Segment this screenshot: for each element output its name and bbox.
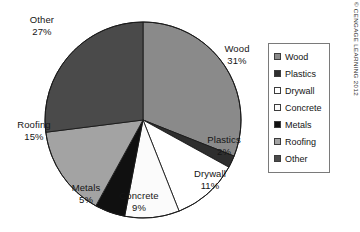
pie-label-roofing-value: 15% <box>7 131 61 143</box>
legend-item-plastics[interactable]: Plastics <box>274 65 329 82</box>
pie-label-metals-name: Metals <box>72 182 101 193</box>
legend-label-wood: Wood <box>285 52 308 62</box>
legend-item-other[interactable]: Other <box>274 150 329 167</box>
pie-label-concrete-name: Concrete <box>119 190 158 201</box>
pie-label-concrete: Concrete 9% <box>110 190 168 213</box>
legend-item-drywall[interactable]: Drywall <box>274 82 329 99</box>
pie-label-other: Other 27% <box>14 14 70 37</box>
pie-label-drywall-value: 11% <box>184 180 236 192</box>
pie-label-metals-value: 5% <box>62 194 110 206</box>
pie-label-roofing-name: Roofing <box>17 119 50 130</box>
legend-swatch-other <box>274 155 281 162</box>
copyright-text: © CENGAGE LEARNING 2012 <box>353 2 360 96</box>
legend-label-plastics: Plastics <box>285 69 316 79</box>
pie-label-plastics-value: 2% <box>196 146 252 158</box>
pie-label-plastics-name: Plastics <box>207 134 241 145</box>
pie-label-wood-name: Wood <box>224 43 249 54</box>
pie-label-metals: Metals 5% <box>62 182 110 205</box>
pie-label-drywall: Drywall 11% <box>184 168 236 191</box>
legend-item-metals[interactable]: Metals <box>274 116 329 133</box>
legend-swatch-drywall <box>274 87 281 94</box>
legend-swatch-wood <box>274 53 281 60</box>
pie-label-other-value: 27% <box>14 26 70 38</box>
pie-slice-other[interactable] <box>45 22 143 132</box>
pie-label-roofing: Roofing 15% <box>7 119 61 142</box>
copyright-notice: © CENGAGE LEARNING 2012 <box>353 2 360 96</box>
legend-swatch-roofing <box>274 138 281 145</box>
legend-swatch-plastics <box>274 70 281 77</box>
legend-swatch-metals <box>274 121 281 128</box>
legend-label-metals: Metals <box>285 120 312 130</box>
legend-item-roofing[interactable]: Roofing <box>274 133 329 150</box>
legend-item-wood[interactable]: Wood <box>274 48 329 65</box>
pie-label-other-name: Other <box>30 14 54 25</box>
legend-item-concrete[interactable]: Concrete <box>274 99 329 116</box>
pie-label-drywall-name: Drywall <box>194 168 226 179</box>
pie-label-plastics: Plastics 2% <box>196 134 252 157</box>
pie-label-wood: Wood 31% <box>212 43 262 66</box>
legend-swatch-concrete <box>274 104 281 111</box>
pie-label-wood-value: 31% <box>212 55 262 67</box>
legend-label-concrete: Concrete <box>285 103 322 113</box>
legend-label-drywall: Drywall <box>285 86 315 96</box>
pie-label-concrete-value: 9% <box>110 202 168 214</box>
legend-label-other: Other <box>285 154 308 164</box>
chart-legend: WoodPlasticsDrywallConcreteMetalsRoofing… <box>268 43 330 173</box>
legend-label-roofing: Roofing <box>285 137 316 147</box>
